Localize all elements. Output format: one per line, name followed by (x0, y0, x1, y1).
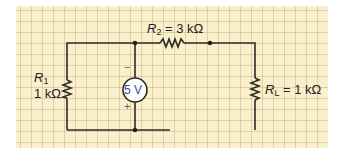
r2-resistor (160, 39, 184, 47)
r1-value-label: 1 kΩ (34, 87, 61, 100)
rl-subscript: L (274, 88, 279, 98)
top-wire-right (184, 43, 255, 78)
junction-dot (208, 41, 212, 45)
r2-subscript: 2 (156, 27, 161, 37)
r1-name-label: R1 (34, 71, 48, 86)
r2-equals: = (165, 21, 173, 36)
junction-dot (133, 41, 137, 45)
r1-subscript: 1 (43, 76, 48, 86)
r1-symbol: R (34, 70, 43, 85)
rl-resistor (251, 78, 259, 100)
r2-value: 3 kΩ (176, 21, 203, 36)
junction-dot (133, 128, 137, 132)
voltage-source-value: 5 V (124, 84, 142, 96)
r2-label: R2 = 3 kΩ (147, 22, 203, 37)
rl-equals: = (283, 82, 291, 97)
r2-symbol: R (147, 21, 156, 36)
r1-resistor (63, 80, 71, 98)
rl-label: RL = 1 kΩ (265, 83, 321, 98)
rl-value: 1 kΩ (294, 82, 321, 97)
source-minus-sign: − (124, 62, 130, 73)
source-plus-sign: + (124, 101, 130, 112)
rl-symbol: R (265, 82, 274, 97)
